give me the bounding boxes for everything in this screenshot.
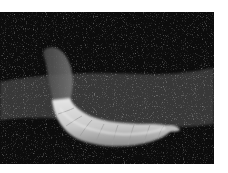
photo: [0, 12, 214, 164]
